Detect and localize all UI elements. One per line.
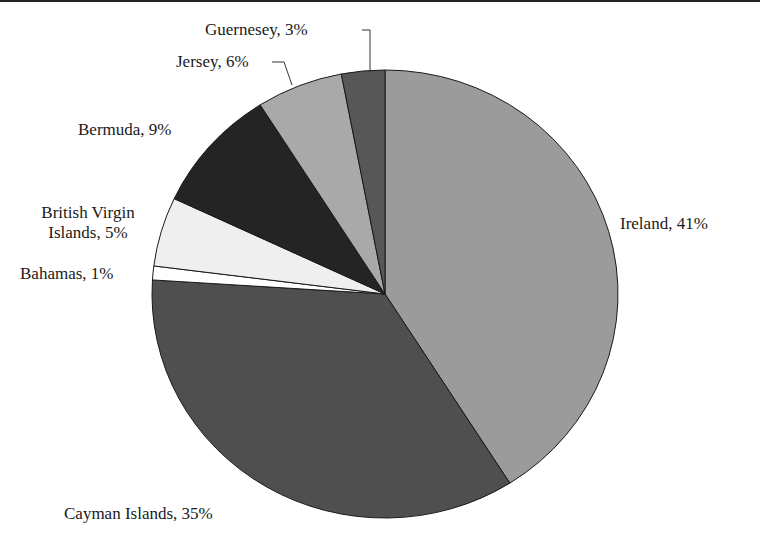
pie-chart [0, 0, 760, 545]
label-bvi-line2: Islands, 5% [28, 223, 148, 243]
label-bvi-line1: British Virgin [28, 203, 148, 223]
label-ireland: Ireland, 41% [620, 214, 708, 234]
leader-line-jersey [272, 62, 292, 85]
leader-line-guernesey [362, 30, 370, 72]
label-bahamas: Bahamas, 1% [20, 264, 113, 284]
label-jersey: Jersey, 6% [176, 52, 249, 72]
label-cayman-islands: Cayman Islands, 35% [64, 504, 213, 524]
pie-slices [152, 70, 618, 518]
label-guernesey: Guernesey, 3% [205, 20, 308, 40]
label-british-virgin-islands: British Virgin Islands, 5% [28, 203, 148, 243]
label-bermuda: Bermuda, 9% [78, 120, 171, 140]
